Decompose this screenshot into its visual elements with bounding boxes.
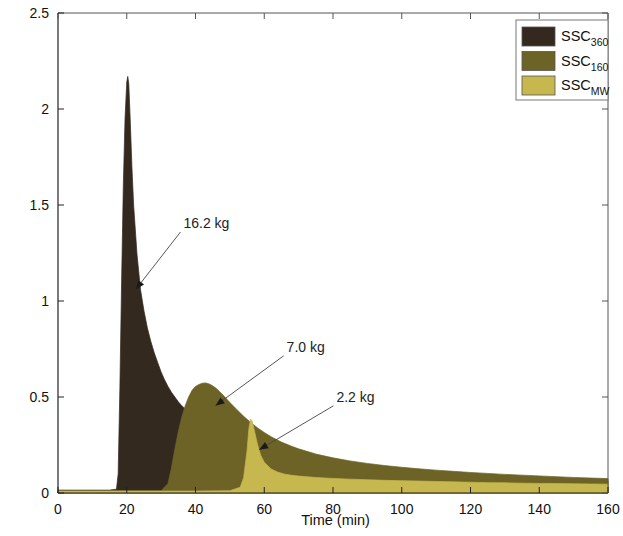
x-tick-label: 80 [325,501,341,517]
x-tick-label: 40 [188,501,204,517]
annotation-label: 16.2 kg [183,215,229,231]
x-tick-label: 140 [528,501,552,517]
x-tick-label: 160 [596,501,620,517]
legend-swatch [522,27,555,46]
annotation: 7.0 kg [215,339,324,406]
x-tick-label: 20 [119,501,135,517]
figure-container: Suspended sediment concentration (g · l-… [0,0,623,536]
annotation-leader [215,356,283,406]
y-tick-label: 1 [41,293,49,309]
y-tick-label: 0.5 [30,389,50,405]
legend-swatch [522,52,555,71]
legend: SSC360SSC160SSCMW [516,20,610,100]
legend-label-subscript: MW [591,85,610,97]
annotation: 16.2 kg [136,215,230,289]
x-tick-label: 120 [459,501,483,517]
legend-label-subscript: 160 [591,61,609,73]
x-tick-label: 60 [256,501,272,517]
y-tick-label: 2 [41,101,49,117]
y-tick-label: 1.5 [30,197,50,213]
annotation-leader [136,232,181,289]
x-tick-label: 0 [54,501,62,517]
annotation-label: 2.2 kg [336,389,374,405]
annotation-label: 7.0 kg [287,339,325,355]
y-tick-label: 0 [41,485,49,501]
y-tick-label: 2.5 [30,5,50,21]
chart-plot: 02040608010012014016000.511.522.516.2 kg… [0,0,623,536]
legend-label-subscript: 360 [591,36,609,48]
annotation-leader [259,406,333,450]
legend-swatch [522,76,555,95]
x-tick-label: 100 [390,501,414,517]
